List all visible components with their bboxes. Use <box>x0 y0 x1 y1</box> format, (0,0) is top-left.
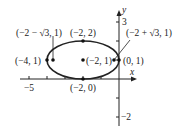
label-top-vertex: (−2, 2) <box>70 28 96 39</box>
x-axis-arrow-icon <box>131 77 137 82</box>
x-tick-label-minus5: −5 <box>24 83 34 93</box>
point-center <box>81 58 85 62</box>
point-left-focus <box>51 58 55 62</box>
label-right-vertex: (0, 1) <box>123 56 144 67</box>
point-left-vertex <box>45 58 49 62</box>
x-axis-label: x <box>129 67 135 77</box>
y-axis-arrow-icon <box>117 10 122 16</box>
point-bottom-vertex <box>81 77 85 81</box>
y-tick-label-minus2: −2 <box>121 112 131 122</box>
point-top-vertex <box>81 39 85 43</box>
label-left-focus: (−2 − √3, 1) <box>16 28 62 39</box>
point-right-focus <box>112 58 116 62</box>
label-center: (−2, 1) <box>86 56 112 67</box>
y-axis-label: y <box>121 5 127 15</box>
y-tick-label-3: 3 <box>122 17 127 27</box>
point-right-vertex <box>117 58 121 62</box>
ellipse-diagram: x y −5 3 −2 (−2 − √3, 1) (−2, 2) (−2 + √ <box>0 0 185 128</box>
label-left-vertex: (−4, 1) <box>15 56 41 67</box>
label-bottom-vertex: (−2, 0) <box>70 83 96 94</box>
label-right-focus: (−2 + √3, 1) <box>126 28 172 39</box>
